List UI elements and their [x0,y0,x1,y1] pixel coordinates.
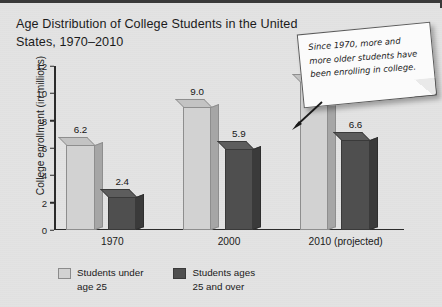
legend-swatch [173,268,186,279]
bar-side [370,137,378,230]
x-axis-category-label: 2010 (projected) [291,236,401,247]
bar-face [183,107,212,230]
bar-side [136,194,144,230]
note-curled-corner [413,77,438,97]
page-top-rule [0,0,442,8]
bar: 6.6 [341,140,370,230]
y-axis-tick-mark [50,202,55,204]
bar-top [58,137,95,145]
bar-top [175,99,212,107]
y-axis-tick-label: 2 [42,197,47,208]
bar-top [333,132,370,140]
bar-value-label: 2.4 [108,176,137,187]
bar-top [217,141,254,149]
callout-note: Since 1970, more and more older students… [297,22,437,109]
callout-note-text: Since 1970, more and more older students… [308,33,422,81]
y-axis-tick-label: 4 [42,170,47,181]
y-axis-tick-label: 0 [42,225,47,236]
legend-label: Students under age 25 [77,266,143,293]
bar-face [108,197,137,230]
page-title: Age Distribution of College Students in … [16,16,306,52]
y-axis-tick-label: 8 [42,115,47,126]
bar-value-label: 6.2 [66,124,95,135]
bar-side [211,104,219,230]
y-axis-tick-label: 10 [36,88,47,99]
y-axis-tick-mark [50,175,55,177]
bar-value-label: 9.0 [183,86,212,97]
bar: 2.4 [108,197,137,230]
bar-group: 9.05.92000 [174,66,284,230]
bar-side [253,146,261,230]
legend-label: Students ages 25 and over [192,266,255,293]
bar-face [225,149,254,230]
y-axis-tick-mark [50,147,55,149]
y-axis-tick-label: 12 [36,61,47,72]
bar: 9.0 [183,107,212,230]
legend-item: Students ages 25 and over [173,266,255,293]
y-axis-tick-mark [50,65,55,67]
bar: 5.9 [225,149,254,230]
bar-side [95,142,103,230]
bar-value-label: 6.6 [341,119,370,130]
x-axis-category-label: 2000 [174,236,284,247]
y-axis-tick-mark [50,229,55,231]
legend-item: Students under age 25 [58,266,143,293]
chart-page: Age Distribution of College Students in … [0,0,442,307]
bar-top [100,189,137,197]
bar: 6.2 [66,145,95,230]
bar-face [341,140,370,230]
y-axis-tick-mark [50,93,55,95]
y-axis-tick-mark [50,120,55,122]
bar-face [66,145,95,230]
legend-swatch [58,268,71,279]
bar-group: 6.22.41970 [58,66,168,230]
x-axis-category-label: 1970 [58,236,168,247]
chart-legend: Students under age 25Students ages 25 an… [58,266,388,293]
bar-value-label: 5.9 [225,128,254,139]
y-axis-tick-label: 6 [42,143,47,154]
